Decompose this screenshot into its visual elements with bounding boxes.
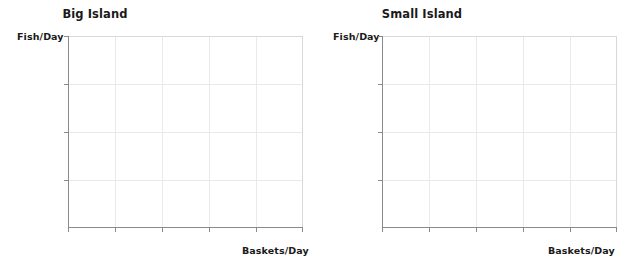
y-axis-tick — [378, 36, 382, 37]
figure-canvas: Big Island Fish/Day Baskets/Day — [0, 0, 641, 276]
x-axis-tick — [302, 228, 303, 232]
x-axis-label: Baskets/Day — [242, 245, 309, 256]
y-axis-tick — [64, 180, 68, 181]
gridline-horizontal — [68, 132, 303, 133]
x-axis-label: Baskets/Day — [548, 245, 615, 256]
x-axis-tick — [209, 228, 210, 232]
panel-title: Small Island — [262, 7, 582, 21]
x-axis-tick — [68, 228, 69, 232]
y-axis-tick — [378, 180, 382, 181]
axis-spine-top — [68, 36, 303, 37]
x-axis-tick — [476, 228, 477, 232]
gridline-horizontal — [382, 84, 617, 85]
axis-spine-bottom — [68, 227, 303, 228]
y-axis-label: Fish/Day — [333, 31, 380, 42]
y-axis-tick — [64, 132, 68, 133]
x-axis-tick — [256, 228, 257, 232]
x-axis-tick — [523, 228, 524, 232]
gridline-horizontal — [68, 180, 303, 181]
axis-spine-right — [302, 36, 303, 228]
axis-spine-top — [382, 36, 617, 37]
y-axis-label: Fish/Day — [17, 31, 64, 42]
plot-area — [382, 36, 617, 228]
gridline-horizontal — [68, 84, 303, 85]
panel-small-island: Small Island Fish/Day Baskets/Day — [320, 0, 640, 276]
axis-spine-left — [68, 36, 69, 228]
x-axis-tick — [616, 228, 617, 232]
y-axis-tick — [64, 36, 68, 37]
x-axis-tick — [429, 228, 430, 232]
x-axis-tick — [570, 228, 571, 232]
x-axis-tick — [115, 228, 116, 232]
gridline-horizontal — [382, 180, 617, 181]
x-axis-tick — [382, 228, 383, 232]
y-axis-tick — [64, 84, 68, 85]
panel-big-island: Big Island Fish/Day Baskets/Day — [0, 0, 320, 276]
gridline-horizontal — [382, 132, 617, 133]
plot-area — [68, 36, 303, 228]
y-axis-tick — [378, 132, 382, 133]
x-axis-tick — [162, 228, 163, 232]
axis-spine-right — [616, 36, 617, 228]
panel-title: Big Island — [0, 7, 255, 21]
axis-spine-bottom — [382, 227, 617, 228]
axis-spine-left — [382, 36, 383, 228]
y-axis-tick — [378, 84, 382, 85]
